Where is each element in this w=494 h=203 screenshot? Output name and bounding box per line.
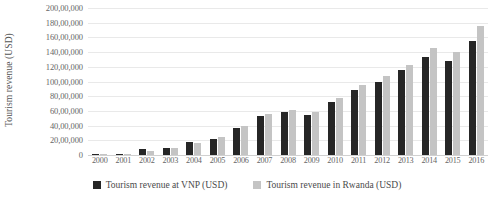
legend-entry[interactable]: Tourism revenue in Rwanda (USD) [253, 180, 401, 190]
bar [445, 61, 452, 155]
bar [241, 126, 248, 155]
bar [139, 149, 146, 155]
bar [124, 154, 131, 155]
x-axis-tick-label: 2016 [465, 156, 489, 170]
x-axis-tick-label: 2001 [112, 156, 136, 170]
legend-label: Tourism revenue at VNP (USD) [106, 180, 228, 190]
bar [375, 82, 382, 156]
bar-group [159, 8, 183, 155]
y-axis-tick-label: 200,00,000 [46, 3, 83, 13]
x-axis-tick-label: 2003 [159, 156, 183, 170]
bar [359, 85, 366, 155]
bar-group [206, 8, 230, 155]
bar-group [465, 8, 489, 155]
y-axis-tick-label: 60,00,000 [50, 106, 83, 116]
x-axis-tick-label: 2008 [276, 156, 300, 170]
bar [100, 154, 107, 155]
bar [336, 98, 343, 155]
x-axis-tick-label: 2009 [300, 156, 324, 170]
bar [233, 128, 240, 155]
bar [171, 148, 178, 155]
bar-group [441, 8, 465, 155]
bar [163, 148, 170, 155]
legend-entry[interactable]: Tourism revenue at VNP (USD) [93, 180, 228, 190]
bar [383, 76, 390, 155]
bar [304, 115, 311, 155]
bar [430, 48, 437, 155]
bar [351, 90, 358, 155]
bar [477, 26, 484, 155]
y-axis-tick-label: 80,00,000 [50, 91, 83, 101]
bar-group [300, 8, 324, 155]
legend-swatch-icon [253, 181, 261, 189]
bars-layer [88, 8, 488, 155]
bar [289, 110, 296, 155]
y-axis-tick-labels: 200,00,000180,00,000160,00,000140,00,000… [18, 8, 86, 155]
x-axis-tick-label: 2013 [394, 156, 418, 170]
x-axis-tick-label: 2007 [253, 156, 277, 170]
bar [116, 154, 123, 155]
bar [194, 143, 201, 155]
bar [406, 65, 413, 155]
bar [265, 114, 272, 155]
bar [210, 139, 217, 155]
x-axis-tick-label: 2011 [347, 156, 371, 170]
plot-area [88, 8, 488, 155]
x-axis-tick-label: 2004 [182, 156, 206, 170]
y-axis-tick-label: 100,00,000 [46, 77, 83, 87]
bar [422, 57, 429, 155]
y-axis-tick-label: 160,00,000 [46, 32, 83, 42]
bar-group [88, 8, 112, 155]
y-axis-tick-label: 20,00,000 [50, 135, 83, 145]
y-axis-tick-label: 0 [79, 150, 83, 160]
bar-group [135, 8, 159, 155]
x-axis-tick-label: 2005 [206, 156, 230, 170]
y-axis-tick-label: 40,00,000 [50, 121, 83, 131]
y-axis-tick-label: 140,00,000 [46, 47, 83, 57]
x-axis-tick-label: 2014 [417, 156, 441, 170]
y-axis-tick-label: 180,00,000 [46, 18, 83, 28]
bar-group [347, 8, 371, 155]
bar [398, 70, 405, 155]
x-axis-tick-labels: 2000200120022003200420052006200720082009… [88, 156, 488, 170]
y-axis-title: Tourism revenue (USD) [0, 0, 18, 160]
x-axis-tick-label: 2000 [88, 156, 112, 170]
bar-group [323, 8, 347, 155]
bar [453, 52, 460, 155]
legend-swatch-icon [93, 181, 101, 189]
y-axis-tick-label: 120,00,000 [46, 62, 83, 72]
chart-legend: Tourism revenue at VNP (USD)Tourism reve… [0, 180, 494, 190]
bar-chart-figure: Tourism revenue (USD) 200,00,000180,00,0… [0, 0, 494, 203]
bar [257, 116, 264, 155]
bar [312, 112, 319, 155]
bar-group [182, 8, 206, 155]
x-axis-tick-label: 2006 [229, 156, 253, 170]
x-axis-tick-label: 2015 [441, 156, 465, 170]
bar [218, 137, 225, 155]
bar-group [394, 8, 418, 155]
bar [281, 112, 288, 155]
bar [469, 41, 476, 155]
y-axis-title-label: Tourism revenue (USD) [4, 33, 14, 127]
bar [328, 102, 335, 155]
x-axis-tick-label: 2012 [370, 156, 394, 170]
bar [92, 154, 99, 155]
bar-group [253, 8, 277, 155]
bar-group [417, 8, 441, 155]
bar-group [276, 8, 300, 155]
bar-group [112, 8, 136, 155]
x-axis-tick-label: 2002 [135, 156, 159, 170]
bar-group [229, 8, 253, 155]
bar [147, 151, 154, 155]
bar [186, 142, 193, 155]
bar-group [370, 8, 394, 155]
legend-label: Tourism revenue in Rwanda (USD) [266, 180, 401, 190]
x-axis-tick-label: 2010 [323, 156, 347, 170]
